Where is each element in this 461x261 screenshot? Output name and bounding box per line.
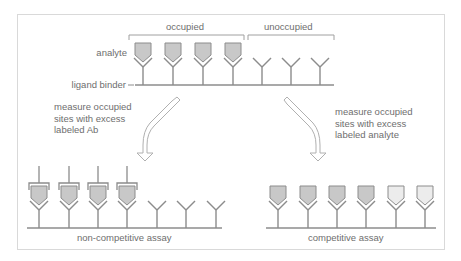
analyte-label: analyte bbox=[62, 47, 127, 58]
non-competitive-row bbox=[27, 166, 225, 228]
competitive-assay-label: competitive assay bbox=[308, 232, 384, 243]
unoccupied-label: unoccupied bbox=[264, 21, 313, 32]
left-arrow-caption: measure occupied sites with excess label… bbox=[54, 101, 132, 136]
unoccupied-bracket bbox=[248, 35, 334, 40]
right-arrow-icon bbox=[284, 97, 326, 161]
competitive-row bbox=[266, 186, 436, 228]
occupied-label: occupied bbox=[166, 21, 204, 32]
occupied-bracket bbox=[129, 35, 244, 40]
non-competitive-assay-label: non-competitive assay bbox=[77, 232, 172, 243]
ligand-binder-label: ligand binder bbox=[40, 79, 126, 90]
left-arrow-icon bbox=[137, 97, 180, 161]
top-row bbox=[128, 35, 334, 85]
right-arrow-caption: measure occupied sites with excess label… bbox=[335, 106, 413, 141]
